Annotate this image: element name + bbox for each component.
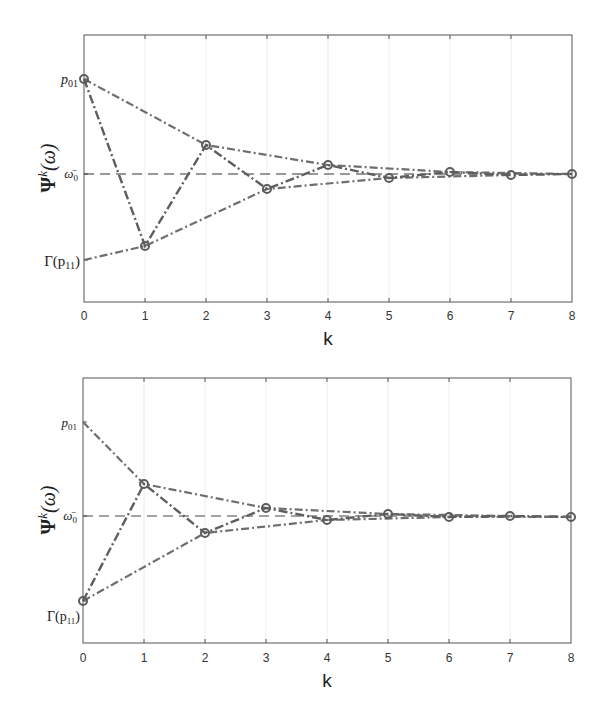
x-tick-label: 8 — [569, 309, 576, 323]
top-x-tick-labels: 0 1 2 3 4 5 6 7 8 — [81, 309, 576, 323]
bottom-y-tick-w0: ω̄0 — [63, 508, 77, 525]
x-tick-label: 1 — [141, 651, 148, 665]
bottom-upper-envelope — [83, 422, 510, 516]
x-tick-label: 7 — [508, 309, 515, 323]
x-tick-label: 7 — [507, 651, 514, 665]
top-x-axis-title: k — [323, 328, 333, 349]
x-tick-label: 6 — [447, 309, 454, 323]
bottom-y-axis-title: Ψk(ω) — [35, 485, 60, 534]
bottom-x-tick-labels: 0 1 2 3 4 5 6 7 8 — [80, 651, 575, 665]
x-tick-label: 3 — [263, 651, 270, 665]
x-tick-label: 3 — [264, 309, 271, 323]
x-tick-label: 6 — [446, 651, 453, 665]
x-tick-label: 4 — [324, 651, 331, 665]
x-tick-label: 2 — [202, 651, 209, 665]
bottom-panel: 0 1 2 3 4 5 6 7 8 k p01 ω̄0 Γ(p11) Ψk(ω) — [35, 378, 575, 691]
figure: 0 1 2 3 4 5 6 7 8 k p01 ω̄0 Γ(p11) Ψk(ω) — [0, 0, 609, 717]
top-panel: 0 1 2 3 4 5 6 7 8 k p01 ω̄0 Γ(p11) Ψk(ω) — [35, 35, 576, 349]
x-tick-label: 0 — [81, 309, 88, 323]
top-y-axis-title: Ψk(ω) — [35, 143, 60, 192]
top-y-tick-w0: ω̄0 — [64, 166, 78, 183]
x-tick-label: 0 — [80, 651, 87, 665]
bottom-y-tick-gamma: Γ(p11) — [47, 609, 80, 626]
x-tick-label: 8 — [568, 651, 575, 665]
bottom-x-axis-title: k — [322, 670, 332, 691]
x-tick-label: 2 — [203, 309, 210, 323]
top-y-tick-gamma: Γ(p11) — [44, 253, 80, 271]
x-tick-label: 4 — [325, 309, 332, 323]
x-tick-label: 5 — [386, 309, 393, 323]
x-tick-label: 1 — [142, 309, 149, 323]
top-y-tick-p01: p01 — [60, 72, 78, 89]
x-tick-label: 5 — [385, 651, 392, 665]
bottom-y-tick-p01: p01 — [61, 415, 78, 432]
